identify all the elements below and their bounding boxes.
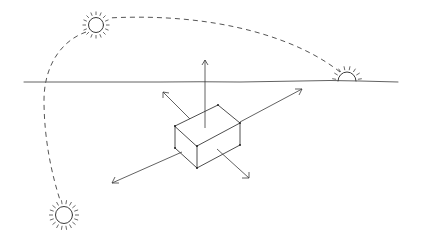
sun-ray bbox=[53, 222, 56, 225]
sun-ray bbox=[74, 210, 78, 211]
sun-ray bbox=[61, 200, 62, 204]
sun-path-arc bbox=[108, 17, 340, 72]
sun-ray bbox=[358, 79, 362, 80]
sun-ray bbox=[353, 69, 355, 72]
sun-ray bbox=[103, 16, 105, 18]
sun-ray bbox=[50, 210, 54, 211]
sun-ray bbox=[66, 226, 67, 230]
horizon-line bbox=[24, 81, 398, 83]
sun-ray bbox=[57, 202, 59, 206]
sun-ray bbox=[72, 205, 75, 208]
sun-ray bbox=[105, 20, 108, 21]
sun-ray bbox=[103, 32, 105, 34]
sun-ray bbox=[53, 205, 56, 208]
sun-top-icon bbox=[83, 12, 110, 39]
sun-ray bbox=[344, 66, 345, 70]
sun-ray bbox=[100, 13, 101, 16]
sun-ray bbox=[105, 29, 108, 30]
sun-path-diagram bbox=[0, 0, 423, 242]
sun-ray bbox=[70, 225, 72, 229]
sun-bottom-icon bbox=[49, 200, 79, 230]
sun-ray bbox=[91, 13, 92, 16]
diagonal-axis-arrow-icon bbox=[112, 89, 302, 183]
sun-ray bbox=[61, 226, 62, 230]
sun-ray bbox=[356, 73, 359, 75]
sun-ray bbox=[349, 66, 350, 70]
sun-ray bbox=[57, 225, 59, 229]
sun-ray bbox=[87, 16, 89, 18]
sun-ray bbox=[91, 34, 92, 37]
up-arrow-icon bbox=[202, 60, 208, 128]
sun-ray bbox=[334, 73, 337, 75]
sun-ray bbox=[84, 20, 87, 21]
sun-ray bbox=[70, 202, 72, 206]
sun-ray bbox=[84, 29, 87, 30]
setting-sun-icon bbox=[332, 66, 362, 81]
sun-ray bbox=[72, 222, 75, 225]
sun-ray bbox=[66, 200, 67, 204]
sun-ray bbox=[332, 79, 336, 80]
upper-left-arrow-icon bbox=[163, 92, 190, 119]
box-shape bbox=[174, 104, 241, 169]
sun-path-arc-left bbox=[44, 32, 86, 200]
sun-ray bbox=[100, 34, 101, 37]
sun-ray bbox=[74, 219, 78, 220]
sun-ray bbox=[50, 219, 54, 220]
lower-right-arrow-icon bbox=[217, 149, 249, 178]
sun-ray bbox=[87, 32, 89, 34]
